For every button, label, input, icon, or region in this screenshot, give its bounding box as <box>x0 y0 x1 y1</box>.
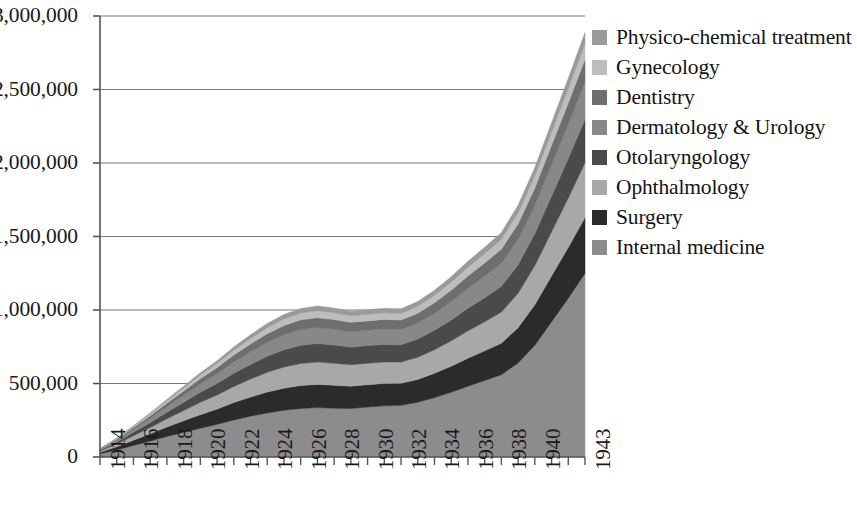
x-axis-tick-label: 1922 <box>242 429 263 470</box>
legend-swatch-icon <box>592 60 607 75</box>
legend-swatch-icon <box>592 210 607 225</box>
legend-item-label: Internal medicine <box>616 234 764 260</box>
chart-legend: Physico-chemical treatmentGynecologyDent… <box>592 24 857 264</box>
legend-item: Physico-chemical treatment <box>592 24 857 51</box>
legend-item-label: Otolaryngology <box>616 144 750 170</box>
legend-swatch-icon <box>592 120 607 135</box>
legend-swatch-icon <box>592 30 607 45</box>
legend-item-label: Surgery <box>616 204 683 230</box>
legend-swatch-icon <box>592 150 607 165</box>
x-axis-tick-label: 1930 <box>376 429 397 470</box>
stacked-area-chart-figure: 3,000,0002,500,0002,000,0001,500,0001,00… <box>0 0 857 520</box>
legend-item: Internal medicine <box>592 234 857 261</box>
x-axis-tick-label: 1926 <box>309 429 330 470</box>
x-axis-tick-label: 1940 <box>543 429 564 470</box>
x-axis-tick-label: 1928 <box>342 429 363 470</box>
legend-item-label: Physico-chemical treatment <box>616 24 852 50</box>
legend-item: Ophthalmology <box>592 174 857 201</box>
legend-item: Otolaryngology <box>592 144 857 171</box>
legend-item: Gynecology <box>592 54 857 81</box>
x-axis-tick-label: 1924 <box>275 429 296 470</box>
legend-item-label: Ophthalmology <box>616 174 749 200</box>
x-axis-tick-label: 1916 <box>141 429 162 470</box>
legend-item-label: Gynecology <box>616 54 720 80</box>
x-axis-tick-label: 1938 <box>509 429 530 470</box>
legend-item-label: Dermatology & Urology <box>616 114 825 140</box>
x-axis-tick-label: 1934 <box>442 429 463 470</box>
legend-item-label: Dentistry <box>616 84 695 110</box>
x-axis-tick-label: 1914 <box>108 429 129 470</box>
x-axis-tick-label: 1932 <box>409 429 430 470</box>
legend-item: Dermatology & Urology <box>592 114 857 141</box>
x-axis-tick-label: 1936 <box>476 429 497 470</box>
legend-swatch-icon <box>592 90 607 105</box>
legend-item: Surgery <box>592 204 857 231</box>
legend-swatch-icon <box>592 180 607 195</box>
chart-plot-area: 3,000,0002,500,0002,000,0001,500,0001,00… <box>0 0 600 520</box>
legend-item: Dentistry <box>592 84 857 111</box>
legend-swatch-icon <box>592 240 607 255</box>
x-axis-tick-label: 1920 <box>208 429 229 470</box>
x-axis-tick-label: 1918 <box>175 429 196 470</box>
x-axis-tick-labels: 1914191619181920192219241926192819301932… <box>0 0 600 520</box>
x-axis-tick-label: 1943 <box>593 429 614 470</box>
